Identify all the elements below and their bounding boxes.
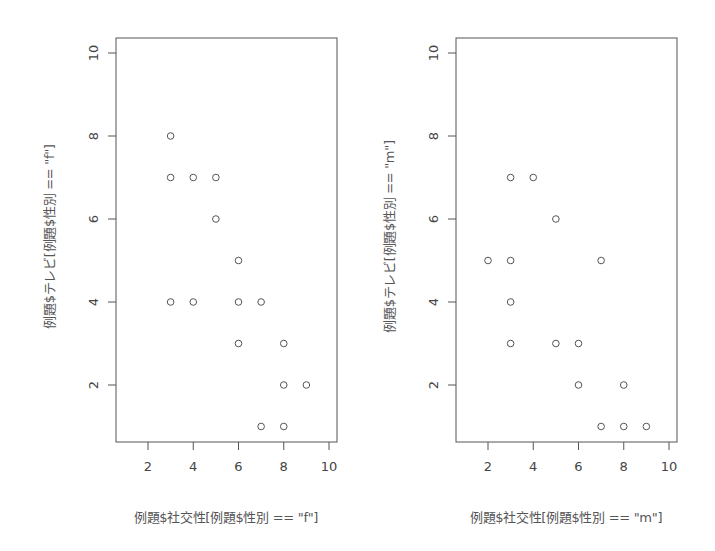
plot-frame <box>116 38 337 442</box>
data-point <box>553 340 560 347</box>
x-axis-label-male: 例題$社交性[例題$性別 == "m"] <box>470 507 662 526</box>
data-point <box>213 174 220 181</box>
data-point <box>507 340 514 347</box>
data-point <box>280 382 287 389</box>
y-tick-label: 2 <box>86 381 101 389</box>
data-point <box>598 423 605 430</box>
scatter-plot-male: 246810246810 例題$社交性[例題$性別 == "m"] 例題$テレビ… <box>340 0 697 551</box>
scatter-plot-female: 246810246810 例題$社交性[例題$性別 == "f"] 例題$テレビ… <box>0 0 357 551</box>
x-tick-label: 10 <box>321 459 338 474</box>
y-tick-label: 6 <box>86 215 101 223</box>
data-point <box>303 382 310 389</box>
data-point <box>598 257 605 264</box>
y-tick-label: 4 <box>86 298 101 306</box>
y-tick-label: 8 <box>86 132 101 140</box>
data-point <box>190 174 197 181</box>
x-tick-label: 8 <box>620 459 628 474</box>
x-tick-label: 6 <box>574 459 582 474</box>
data-point <box>575 340 582 347</box>
data-point <box>190 299 197 306</box>
x-axis-label-female: 例題$社交性[例題$性別 == "f"] <box>134 507 318 526</box>
data-point <box>280 423 287 430</box>
x-tick-label: 10 <box>661 459 678 474</box>
x-tick-label: 2 <box>484 459 492 474</box>
y-axis-label-male: 例題$テレビ[例題$性別 == "m"] <box>379 140 398 332</box>
data-point <box>620 382 627 389</box>
data-point <box>575 382 582 389</box>
y-axis-label-female: 例題$テレビ[例題$性別 == "f"] <box>39 144 58 328</box>
data-point <box>530 174 537 181</box>
data-point <box>235 340 242 347</box>
data-point <box>258 299 265 306</box>
x-tick-label: 6 <box>234 459 242 474</box>
x-tick-label: 8 <box>280 459 288 474</box>
plot-frame <box>456 38 677 442</box>
y-tick-label: 10 <box>86 45 101 62</box>
x-tick-label: 4 <box>189 459 197 474</box>
x-tick-label: 4 <box>529 459 537 474</box>
data-point <box>213 216 220 223</box>
data-point <box>280 340 287 347</box>
y-tick-label: 6 <box>426 215 441 223</box>
data-point <box>553 216 560 223</box>
data-point <box>258 423 265 430</box>
data-point <box>507 174 514 181</box>
data-point <box>507 299 514 306</box>
y-tick-label: 4 <box>426 298 441 306</box>
data-point <box>235 299 242 306</box>
y-tick-label: 8 <box>426 132 441 140</box>
data-point <box>620 423 627 430</box>
data-point <box>167 133 174 140</box>
data-point <box>235 257 242 264</box>
data-point <box>643 423 650 430</box>
y-tick-label: 10 <box>426 45 441 62</box>
data-point <box>167 174 174 181</box>
y-tick-label: 2 <box>426 381 441 389</box>
x-tick-label: 2 <box>144 459 152 474</box>
data-point <box>507 257 514 264</box>
data-point <box>167 299 174 306</box>
data-point <box>485 257 492 264</box>
